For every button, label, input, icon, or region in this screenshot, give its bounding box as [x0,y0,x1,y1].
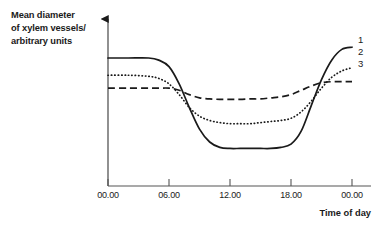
series-label-2: 2 [358,46,374,57]
x-axis-ticks [108,179,352,186]
x-tick-label-0: 00.00 [86,190,130,200]
plot-area [0,0,383,229]
x-tick-label-4: 00.00 [330,190,374,200]
chart-figure: Mean diameter of xylem vessels/ arbitrar… [0,0,383,229]
x-tick-label-3: 18.00 [269,190,313,200]
series-label-1: 1 [358,34,374,45]
series-line-1 [108,47,352,148]
data-series-group [108,47,352,148]
axes [108,19,371,186]
x-tick-label-1: 06.00 [147,190,191,200]
series-line-2 [108,68,352,124]
x-axis-title: Time of day [320,208,372,218]
x-tick-label-2: 12.00 [208,190,252,200]
series-label-3: 3 [358,58,374,69]
